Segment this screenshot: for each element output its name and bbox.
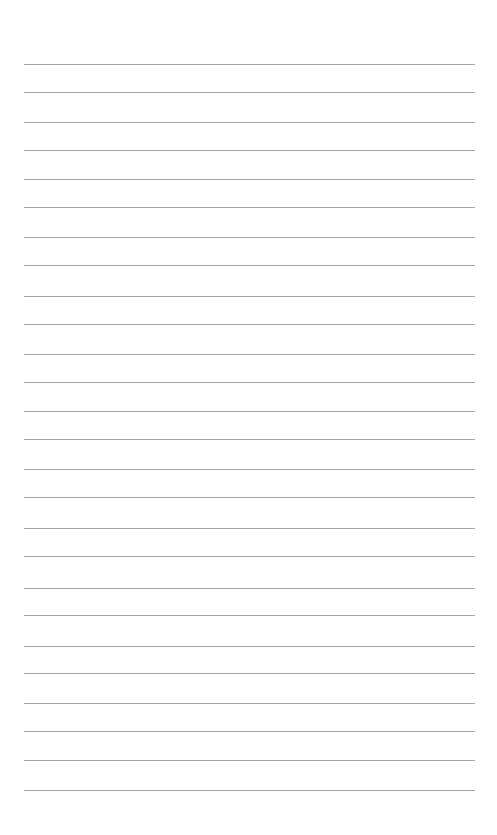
ruled-line [24,150,475,151]
ruled-line [24,528,475,529]
ruled-line [24,179,475,180]
ruled-line [24,469,475,470]
lined-paper-page [0,0,497,835]
ruled-line [24,411,475,412]
ruled-line [24,64,475,65]
ruled-line [24,296,475,297]
ruled-line [24,207,475,208]
ruled-line [24,615,475,616]
ruled-line [24,646,475,647]
ruled-line [24,324,475,325]
ruled-line [24,790,475,791]
ruled-line [24,265,475,266]
ruled-line [24,382,475,383]
ruled-line [24,556,475,557]
ruled-line [24,122,475,123]
ruled-line [24,354,475,355]
ruled-line [24,673,475,674]
ruled-line [24,703,475,704]
ruled-line [24,439,475,440]
ruled-line [24,588,475,589]
ruled-line [24,760,475,761]
ruled-line [24,731,475,732]
ruled-line [24,237,475,238]
ruled-line [24,497,475,498]
ruled-line [24,92,475,93]
